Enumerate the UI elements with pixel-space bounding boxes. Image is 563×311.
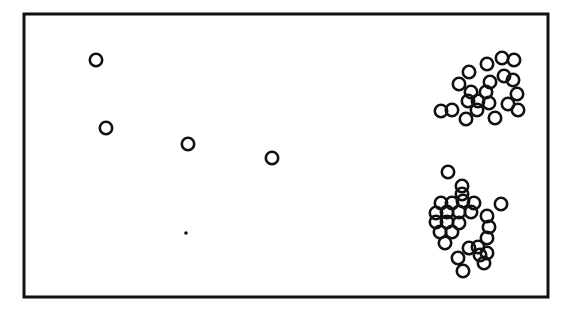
point-group-tiny-speck [184,231,188,235]
data-point-dot [184,231,188,235]
scatter-plot-figure [0,0,563,311]
plot-canvas [0,0,563,311]
